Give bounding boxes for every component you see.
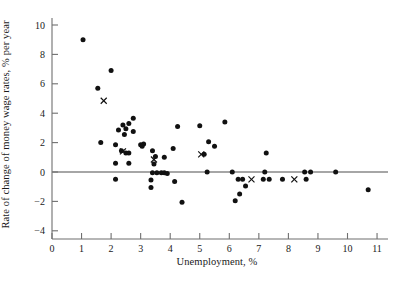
y-tick-label: 0	[40, 167, 45, 178]
data-point	[302, 170, 307, 175]
data-point	[154, 170, 159, 175]
data-point	[237, 192, 242, 197]
data-point-cross	[248, 176, 254, 182]
data-point	[131, 129, 136, 134]
data-point	[206, 139, 211, 144]
data-point	[212, 144, 217, 149]
data-point	[267, 177, 272, 182]
x-tick-label: 9	[315, 243, 320, 254]
series-observations	[81, 37, 371, 204]
data-point	[162, 155, 167, 160]
y-tick-label: 8	[40, 49, 45, 60]
x-tick-label: 0	[50, 243, 55, 254]
data-point	[81, 37, 86, 42]
y-tick-label: 10	[35, 20, 45, 31]
data-point	[123, 126, 128, 131]
x-tick-label: 6	[227, 243, 232, 254]
data-point	[150, 170, 155, 175]
data-point	[280, 177, 285, 182]
data-point	[233, 198, 238, 203]
data-point	[172, 179, 177, 184]
data-point	[148, 178, 153, 183]
phillips-curve-figure: Rate of change of money wage rates, % pe…	[0, 0, 401, 281]
x-tick-label: 11	[372, 243, 382, 254]
data-point	[109, 68, 114, 73]
data-point	[131, 116, 136, 121]
data-point	[171, 146, 176, 151]
data-point	[113, 177, 118, 182]
data-point	[262, 170, 267, 175]
x-tick-label: 7	[256, 243, 261, 254]
x-tick-label: 2	[109, 243, 114, 254]
data-point	[140, 144, 145, 149]
data-point	[243, 183, 248, 188]
data-point	[180, 200, 185, 205]
data-point	[236, 177, 241, 182]
data-point	[151, 161, 156, 166]
scatter-plot-canvas: −4−2024681001234567891011	[0, 0, 401, 281]
data-point	[308, 170, 313, 175]
data-point-cross	[291, 176, 297, 182]
x-tick-label: 5	[197, 243, 202, 254]
y-tick-label: −4	[34, 225, 45, 236]
series-highlighted	[101, 98, 298, 183]
y-tick-label: −2	[34, 196, 45, 207]
x-tick-label: 3	[138, 243, 143, 254]
data-point	[333, 170, 338, 175]
data-point	[230, 170, 235, 175]
data-point	[175, 124, 180, 129]
data-point-cross	[101, 98, 107, 104]
y-tick-label: 4	[40, 108, 45, 119]
data-point	[197, 123, 202, 128]
data-point	[113, 142, 118, 147]
x-tick-label: 4	[168, 243, 173, 254]
data-point	[122, 132, 127, 137]
axes-group: −4−2024681001234567891011	[34, 18, 388, 254]
data-point	[150, 148, 155, 153]
x-tick-label: 8	[286, 243, 291, 254]
data-point	[98, 140, 103, 145]
data-point	[95, 86, 100, 91]
data-point	[113, 161, 118, 166]
data-point	[126, 121, 131, 126]
data-point	[222, 120, 227, 125]
x-tick-label: 1	[79, 243, 84, 254]
data-point	[205, 170, 210, 175]
y-tick-label: 6	[40, 78, 45, 89]
data-point	[261, 177, 266, 182]
x-tick-label: 10	[343, 243, 353, 254]
x-axis-label: Unemployment, %	[52, 256, 382, 267]
data-point	[126, 150, 131, 155]
y-axis-label: Rate of change of money wage rates, % pe…	[0, 0, 16, 265]
data-point	[165, 171, 170, 176]
data-point	[264, 150, 269, 155]
y-tick-label: 2	[40, 137, 45, 148]
data-point	[116, 128, 121, 133]
data-point	[304, 177, 309, 182]
data-point	[366, 187, 371, 192]
data-point	[148, 185, 153, 190]
data-point	[240, 177, 245, 182]
data-point	[126, 161, 131, 166]
